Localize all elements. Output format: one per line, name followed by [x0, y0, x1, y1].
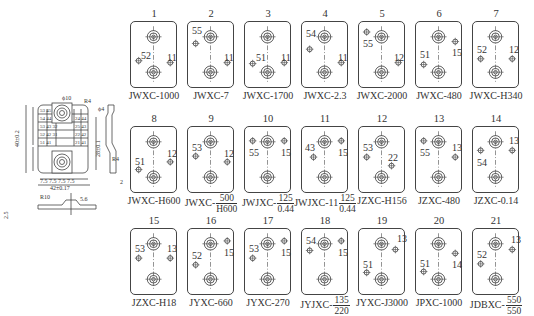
svg-text:53 45: 53 45 — [40, 108, 52, 113]
socket-outline: 5415 — [301, 228, 348, 295]
pin-label: 12 — [167, 149, 177, 159]
pin-label: 15 — [224, 248, 234, 258]
svg-text:ϕ4: ϕ4 — [98, 106, 104, 112]
socket-number: 10 — [240, 113, 296, 125]
socket-pins-icon — [188, 229, 233, 294]
svg-text:R10: R10 — [40, 194, 50, 200]
pin-label: 52 — [477, 45, 487, 55]
model-name: JYXC-J3000 — [356, 297, 408, 308]
model-name: JWXC-7 — [193, 90, 229, 101]
socket-outline: 5211 — [130, 21, 177, 88]
socket-model-label: JZXC-0.14 — [460, 195, 532, 207]
pin-label: 12 — [224, 149, 234, 159]
pin-label: 22 — [388, 153, 398, 163]
model-name: JWXC-1000 — [129, 90, 180, 101]
socket-number: 18 — [297, 215, 353, 227]
socket-number: 8 — [126, 113, 182, 125]
svg-text:5.6: 5.6 — [80, 196, 88, 202]
dimension-drawing-icon: ϕ10 R4 ϕ4 R4 40±0.2 28±0.1 7.5 7.5 7.5 7… — [0, 95, 128, 220]
pin-label: 13 — [511, 235, 521, 245]
model-name: JPXC-1000 — [416, 297, 463, 308]
pin-label: 51 — [363, 260, 373, 270]
socket-number: 4 — [297, 8, 353, 20]
model-name: JZXC-480 — [418, 195, 460, 206]
svg-text:R4: R4 — [84, 98, 91, 104]
socket-number: 15 — [126, 215, 182, 227]
svg-text:21 41: 21 41 — [75, 140, 87, 145]
svg-text:24 44: 24 44 — [75, 116, 87, 121]
pin-label: 51 — [420, 259, 430, 269]
socket-outline: 5115 — [415, 21, 462, 88]
pin-label: 53 — [249, 244, 259, 254]
svg-text:ϕ10: ϕ10 — [62, 95, 71, 101]
pin-label: 55 — [192, 26, 202, 36]
socket-number: 5 — [354, 8, 410, 20]
svg-text:53 43 32: 53 43 32 — [40, 124, 58, 129]
pin-label: 53 — [192, 143, 202, 153]
pin-label: 11 — [281, 53, 291, 63]
pin-label: 55 — [420, 148, 430, 158]
svg-text:22 42: 22 42 — [75, 132, 87, 137]
svg-text:28±0.1: 28±0.1 — [95, 140, 101, 157]
pin-label: 54 — [477, 158, 487, 168]
socket-outline: 5213 — [472, 228, 519, 295]
model-name: JWXC-H600 — [128, 195, 181, 206]
pin-label: 15 — [452, 48, 462, 58]
svg-text:2: 2 — [120, 179, 123, 185]
svg-text:2.5: 2.5 — [3, 212, 9, 220]
socket-pins-icon — [416, 127, 461, 192]
socket-outline: 5512 — [358, 21, 405, 88]
socket-pins-icon — [245, 229, 290, 294]
socket-outline: 5114 — [415, 228, 462, 295]
pin-label: 51 — [256, 53, 266, 63]
pin-label: 55 — [249, 148, 259, 158]
socket-number: 1 — [126, 8, 182, 20]
pin-label: 12 — [509, 45, 519, 55]
pin-label: 43 — [305, 143, 315, 153]
model-name: JWXC-1700 — [243, 90, 294, 101]
model-name: JWXC-H340 — [470, 90, 523, 101]
svg-text:54 44: 54 44 — [40, 116, 52, 121]
pin-label: 52 — [192, 251, 202, 261]
pin-label: 53 — [363, 143, 373, 153]
pin-label: 15 — [338, 248, 348, 258]
socket-outline: 5515 — [244, 126, 291, 193]
socket-number: 7 — [468, 8, 524, 20]
socket-number: 13 — [411, 113, 467, 125]
model-name: JWJXC- — [242, 197, 276, 208]
socket-number: 16 — [183, 215, 239, 227]
pin-label: 13 — [167, 244, 177, 254]
socket-number: 12 — [354, 113, 410, 125]
socket-pins-icon — [188, 127, 233, 192]
socket-number: 9 — [183, 113, 239, 125]
socket-number: 2 — [183, 8, 239, 20]
model-name: JZXC-H18 — [132, 297, 176, 308]
model-name: JWXC- — [185, 197, 216, 208]
pin-label: 15 — [281, 148, 291, 158]
socket-number: 11 — [297, 113, 353, 125]
pin-label: 52 — [477, 250, 487, 260]
socket-number: 20 — [411, 215, 467, 227]
pin-label: 51 — [135, 157, 145, 167]
socket-pins-icon — [131, 229, 176, 294]
pin-label: 54 — [306, 29, 316, 39]
pin-label: 11 — [224, 53, 234, 63]
model-name: JWXC-2.3 — [303, 90, 346, 101]
model-name: JWXC-480 — [416, 90, 462, 101]
socket-pins-icon — [302, 127, 347, 192]
socket-dimension-drawing: ϕ10 R4 ϕ4 R4 40±0.2 28±0.1 7.5 7.5 7.5 7… — [0, 95, 128, 220]
svg-text:42±0.17: 42±0.17 — [50, 185, 70, 191]
socket-outline: 5312 — [187, 126, 234, 193]
socket-outline: 5112 — [130, 126, 177, 193]
socket-outline: 5113 — [358, 228, 405, 295]
model-name: JWJXC-11 — [294, 197, 338, 208]
svg-text:7.5 7.5 7.5 7.5: 7.5 7.5 7.5 7.5 — [40, 178, 75, 184]
fraction-numerator: 550 — [506, 295, 522, 306]
socket-number: 21 — [468, 215, 524, 227]
model-name: JZXC-H156 — [357, 195, 406, 206]
socket-outline: 4315 — [301, 126, 348, 193]
pin-label: 51 — [420, 50, 430, 60]
pin-label: 55 — [363, 39, 373, 49]
socket-outline: 5411 — [301, 21, 348, 88]
socket-outline: 5111 — [244, 21, 291, 88]
